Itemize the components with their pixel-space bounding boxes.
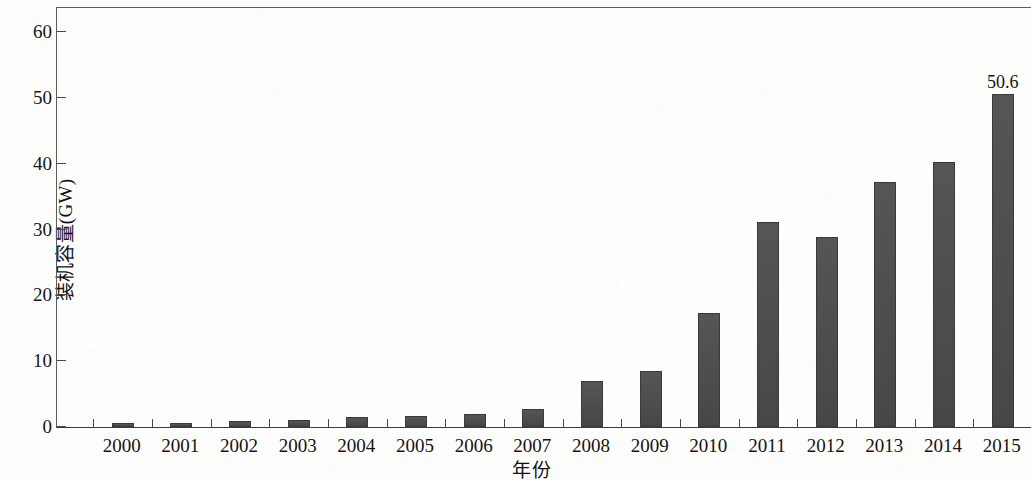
x-axis-tick xyxy=(856,419,857,427)
x-axis-tick xyxy=(563,419,564,427)
x-axis-tick-label: 2013 xyxy=(854,436,914,455)
bar[interactable] xyxy=(464,414,486,427)
bar-slot xyxy=(874,6,896,427)
x-axis-tick-label: 2008 xyxy=(561,436,621,455)
x-axis-tick xyxy=(93,419,94,427)
x-axis-tick xyxy=(211,419,212,427)
x-axis-tick-label: 2005 xyxy=(385,436,445,455)
bar-slot xyxy=(464,6,486,427)
bar-slot xyxy=(757,6,779,427)
x-axis-tick xyxy=(1003,419,1004,427)
x-axis-tick-label: 2015 xyxy=(972,436,1031,455)
x-axis-tick xyxy=(269,419,270,427)
chart-figure: 装机容量(GW) 0102030405060 50.6 200020012002… xyxy=(0,0,1031,480)
x-axis-tick-label: 2004 xyxy=(326,436,386,455)
bar[interactable] xyxy=(346,417,368,427)
bar[interactable] xyxy=(640,371,662,427)
bar-slot: 50.6 xyxy=(992,6,1014,427)
y-axis-tick-label: 30 xyxy=(33,220,52,239)
bar-slot xyxy=(112,6,134,427)
bar[interactable] xyxy=(405,416,427,427)
x-axis-tick xyxy=(504,419,505,427)
x-axis-tick xyxy=(973,419,974,427)
x-axis-tick xyxy=(152,419,153,427)
x-axis-tick xyxy=(445,419,446,427)
bar-slot xyxy=(170,6,192,427)
y-axis-tick-label: 0 xyxy=(43,417,53,436)
x-axis-tick xyxy=(680,419,681,427)
x-axis-tick-label: 2007 xyxy=(502,436,562,455)
x-axis-tick-label: 2014 xyxy=(913,436,973,455)
bar-slot xyxy=(640,6,662,427)
x-axis-tick xyxy=(387,419,388,427)
bar[interactable] xyxy=(112,423,134,427)
plot-area: 0102030405060 50.6 xyxy=(56,7,1031,428)
x-axis-tick-label: 2000 xyxy=(92,436,152,455)
y-axis-tick-label: 10 xyxy=(33,351,52,370)
y-axis-tick-label: 60 xyxy=(33,22,52,41)
bar[interactable] xyxy=(933,162,955,427)
x-axis-tick xyxy=(328,419,329,427)
bar-slot xyxy=(933,6,955,427)
bar-slot xyxy=(405,6,427,427)
bar-slot xyxy=(816,6,838,427)
bar-slot xyxy=(581,6,603,427)
bar-slot xyxy=(522,6,544,427)
y-axis-tick-label: 20 xyxy=(33,286,52,305)
bar[interactable] xyxy=(698,313,720,427)
x-axis-tick-label: 2009 xyxy=(620,436,680,455)
x-axis-tick-label: 2011 xyxy=(737,436,797,455)
x-axis-tick-label: 2001 xyxy=(150,436,210,455)
x-axis-tick xyxy=(797,419,798,427)
bar[interactable] xyxy=(992,94,1014,427)
x-axis-tick-label: 2010 xyxy=(678,436,738,455)
y-axis-tick-label: 40 xyxy=(33,154,52,173)
x-axis-tick xyxy=(621,419,622,427)
bar[interactable] xyxy=(757,222,779,427)
bar-slot xyxy=(288,6,310,427)
x-axis-tick-label: 2012 xyxy=(796,436,856,455)
bar[interactable] xyxy=(816,237,838,427)
bar[interactable] xyxy=(170,423,192,427)
bar[interactable] xyxy=(874,182,896,427)
y-axis-tick-label: 50 xyxy=(33,88,52,107)
bar-value-label: 50.6 xyxy=(987,73,1019,91)
x-axis-tick-label: 2002 xyxy=(209,436,269,455)
bar-series: 50.6 xyxy=(57,8,1031,427)
bar-slot xyxy=(229,6,251,427)
bar-slot xyxy=(346,6,368,427)
x-axis-tick xyxy=(739,419,740,427)
bar[interactable] xyxy=(288,420,310,427)
bar-slot xyxy=(698,6,720,427)
x-axis-tick-label: 2003 xyxy=(268,436,328,455)
x-axis-tick-label: 2006 xyxy=(444,436,504,455)
bar[interactable] xyxy=(229,421,251,427)
x-axis-tick xyxy=(915,419,916,427)
x-axis-title: 年份 xyxy=(512,461,551,480)
bar[interactable] xyxy=(522,409,544,427)
bar[interactable] xyxy=(581,381,603,427)
